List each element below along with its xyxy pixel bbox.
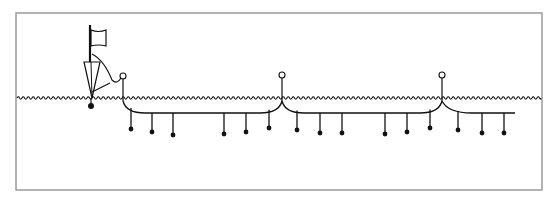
hook-icon (295, 128, 300, 133)
branchline (480, 113, 485, 135)
mainline-segment (123, 101, 282, 113)
buoy-float (439, 72, 445, 78)
buoy-float (279, 72, 285, 78)
hook-icon (150, 130, 155, 135)
water-surface-line (17, 97, 541, 99)
hook-icon (340, 131, 345, 136)
branchline (340, 113, 345, 135)
mainline (123, 101, 515, 113)
anchor-weight (88, 103, 94, 109)
branchline (318, 113, 323, 135)
branchline (383, 113, 388, 136)
hook-icon (171, 133, 176, 138)
hook-icon (428, 126, 433, 131)
hook-icon (318, 131, 323, 136)
branchline (456, 111, 461, 132)
longline-diagram (0, 0, 551, 199)
flag-buoy (84, 25, 121, 109)
mainline-segment (282, 101, 442, 113)
buoy-float (120, 73, 126, 79)
branchline (222, 113, 227, 136)
branchline (150, 113, 155, 134)
branchline (405, 113, 410, 134)
hook-icon (244, 130, 249, 135)
flag (91, 30, 106, 46)
branchline (502, 113, 507, 135)
hook-icon (456, 128, 461, 133)
mainline-segment (442, 101, 515, 113)
branchline (244, 113, 249, 134)
hook-icon (480, 131, 485, 136)
hook-icon (222, 132, 227, 137)
branchline (295, 111, 300, 133)
hook-icon (405, 130, 410, 135)
buoy-left (120, 73, 126, 101)
branchline (171, 113, 176, 137)
hook-icon (267, 126, 272, 131)
hook-icon (129, 127, 134, 132)
hook-icon (383, 132, 388, 137)
hook-icon (502, 131, 507, 136)
